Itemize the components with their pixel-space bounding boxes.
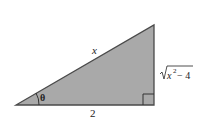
triangle-shape (16, 25, 154, 105)
opposite-label: x 2 − 4 (160, 66, 193, 81)
adjacent-label: 2 (90, 107, 96, 119)
svg-text:− 4: − 4 (177, 70, 190, 81)
svg-text:x: x (166, 70, 172, 81)
hypotenuse-label: x (91, 44, 97, 56)
angle-label: θ (40, 92, 45, 103)
triangle-diagram: x 2 θ x 2 − 4 (0, 0, 205, 120)
